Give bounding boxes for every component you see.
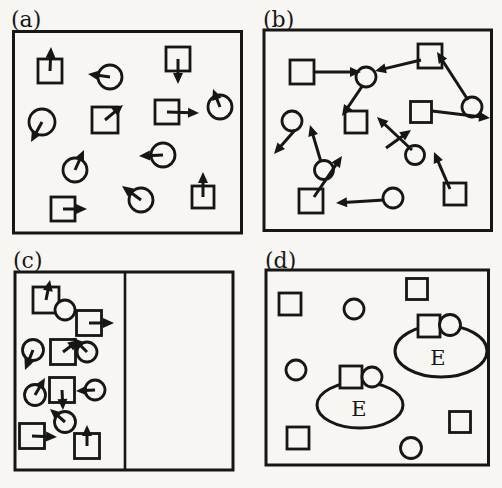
circle-particle bbox=[356, 67, 376, 87]
square-particle bbox=[407, 279, 428, 300]
square-particle bbox=[279, 293, 301, 315]
square-particle bbox=[290, 60, 314, 84]
panel-a-label: (a) bbox=[11, 7, 41, 32]
square-particle bbox=[450, 412, 471, 433]
bound-square-substrate bbox=[418, 315, 440, 337]
diagram-canvas: (a)(b)(c)EE(d) bbox=[0, 0, 502, 488]
circle-particle bbox=[344, 299, 364, 319]
circle-particle bbox=[55, 300, 75, 320]
square-particle bbox=[345, 111, 367, 133]
square-particle bbox=[299, 189, 323, 213]
panel-b-label: (b) bbox=[263, 7, 294, 32]
panel-d-label: (d) bbox=[265, 248, 296, 273]
bound-circle-substrate bbox=[440, 315, 461, 336]
motion-arrow-shaft bbox=[167, 112, 191, 113]
circle-particle bbox=[383, 188, 403, 208]
enzyme-label: E bbox=[430, 346, 445, 370]
bound-circle-substrate bbox=[362, 367, 382, 387]
square-particle bbox=[411, 102, 432, 123]
circle-particle bbox=[401, 438, 422, 459]
square-particle bbox=[287, 427, 309, 449]
bound-square-substrate bbox=[340, 366, 362, 388]
circle-particle bbox=[286, 360, 306, 380]
enzyme-label: E bbox=[351, 397, 366, 421]
panel-c-label: (c) bbox=[13, 248, 43, 273]
circle-particle bbox=[282, 111, 302, 131]
four-panel-figure: (a)(b)(c)EE(d) bbox=[0, 0, 502, 488]
